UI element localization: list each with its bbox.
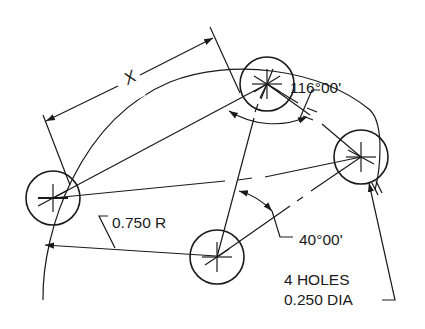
leader-holes <box>369 183 395 300</box>
angle-arc-40 <box>239 191 272 211</box>
angle-116-label: 116°00' <box>290 80 341 96</box>
dim-x-line-2 <box>140 38 213 75</box>
center-mark-b <box>252 69 282 99</box>
extension-line-b <box>210 27 240 93</box>
radius-label: 0.750 R <box>112 215 166 231</box>
center-mark-d <box>202 242 232 272</box>
leader-40 <box>272 211 293 237</box>
angle-40-label: 40°00' <box>299 232 343 248</box>
dim-x-line-1 <box>46 86 118 121</box>
center-mark-a <box>38 184 68 212</box>
centerline-a-b <box>53 84 267 198</box>
bolt-circle-arc <box>43 69 380 300</box>
centerline-d-b <box>217 118 254 257</box>
center-mark-c <box>346 142 376 172</box>
hole-note-diameter: 0.250 DIA <box>284 290 353 310</box>
hole-pattern-drawing <box>0 0 425 329</box>
hole-note: 4 HOLES 0.250 DIA <box>284 270 353 310</box>
angle-arc-116 <box>229 111 307 124</box>
centerline-a-c-dash <box>238 178 252 180</box>
hole-note-count: 4 HOLES <box>284 270 353 290</box>
